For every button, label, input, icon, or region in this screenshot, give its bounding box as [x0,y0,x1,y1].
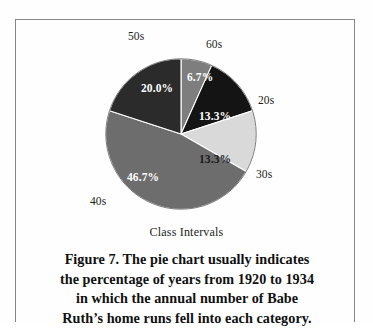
pie-percent-label-50s: 20.0% [141,82,173,94]
pie-chart-svg [105,58,257,210]
figure-caption-line-4: Ruth’s home runs fell into each category… [22,309,352,328]
pie-category-label-40s: 40s [90,195,106,207]
pie-category-label-20s: 20s [258,94,274,106]
figure-caption: Figure 7. The pie chart usually indicate… [22,250,352,328]
pie-percent-label-20s: 13.3% [199,110,231,122]
figure-caption-line-2: the percentage of years from 1920 to 193… [22,270,352,290]
pie-percent-label-40s: 46.7% [127,171,159,183]
axis-caption-class-intervals: Class Intervals [0,225,373,240]
pie-slice-group [106,59,256,209]
pie-percent-label-30s: 13.3% [199,153,231,165]
pie-chart-area: 50s 60s 20s 30s 40s 6.7% 13.3% 13.3% 46.… [0,0,373,245]
pie-category-label-60s: 60s [206,38,222,50]
pie-category-label-30s: 30s [256,168,272,180]
figure-caption-line-1: Figure 7. The pie chart usually indicate… [22,250,352,270]
figure-caption-line-3: in which the annual number of Babe [22,289,352,309]
pie-category-label-50s: 50s [128,30,144,42]
pie-percent-label-60s: 6.7% [187,71,213,83]
